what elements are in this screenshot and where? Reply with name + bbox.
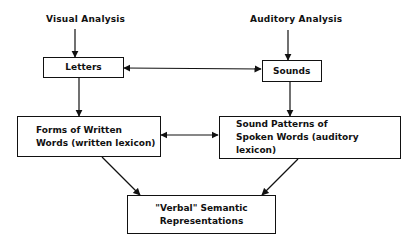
semantic-line1: "Verbal" Semantic [155,202,247,215]
written-lexicon-line2: Words (written lexicon) [36,137,160,150]
auditory-lexicon-line2: Spoken Words (auditory lexicon) [236,131,400,157]
written-lexicon-line1: Forms of Written [36,124,160,137]
auditory-analysis-label: Auditory Analysis [250,14,342,24]
semantic-line2: Representations [160,215,244,228]
arrow-letters-sounds [124,68,261,69]
semantic-representations-box: "Verbal" Semantic Representations [127,195,276,234]
visual-analysis-label: Visual Analysis [46,14,125,24]
written-lexicon-box: Forms of Written Words (written lexicon) [17,116,161,157]
sounds-box: Sounds [262,60,322,82]
auditory-lexicon-box: Sound Patterns of Spoken Words (auditory… [219,116,401,159]
letters-box: Letters [43,57,124,78]
arrow-forms-to-semantic [102,157,140,195]
arrow-patterns-to-semantic [262,159,298,195]
auditory-lexicon-line1: Sound Patterns of [236,118,400,131]
letters-text: Letters [65,61,101,74]
sounds-text: Sounds [273,65,321,78]
